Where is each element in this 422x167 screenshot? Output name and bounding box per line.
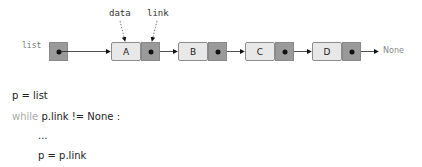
code-line-3: ... <box>38 130 48 141</box>
node-a-data: A <box>111 42 141 61</box>
terminal-none: None <box>383 46 404 55</box>
node-b-link <box>208 42 227 61</box>
node-c-data: C <box>245 42 275 61</box>
node-d-link <box>342 42 361 61</box>
code-line-4: p = p.link <box>38 150 86 161</box>
code-condition: p.link != None : <box>38 111 120 122</box>
code-line-2: while p.link != None : <box>12 111 120 122</box>
pointer-dot-icon <box>282 49 287 54</box>
code-line-1: p = list <box>12 90 48 101</box>
node-a-link <box>141 42 160 61</box>
keyword-while: while <box>12 111 38 122</box>
pointer-dot-icon <box>148 49 153 54</box>
node-b-data: B <box>178 42 208 61</box>
pointer-dot-icon <box>349 49 354 54</box>
pointer-dot-icon <box>215 49 220 54</box>
node-c-link <box>275 42 294 61</box>
node-d-data: D <box>312 42 342 61</box>
